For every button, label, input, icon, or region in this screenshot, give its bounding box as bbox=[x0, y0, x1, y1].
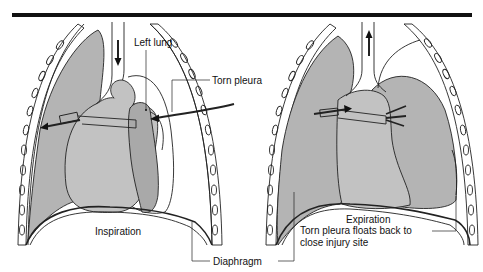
pneumothorax-diagram: Left lung Torn pleura Inspiration Diaphr… bbox=[0, 0, 483, 272]
label-diaphragm: Diaphragm bbox=[213, 256, 262, 267]
top-rule bbox=[12, 13, 472, 17]
label-torn-pleura: Torn pleura bbox=[212, 75, 262, 86]
caption-expiration: Expiration bbox=[346, 214, 390, 225]
note-torn-pleura-line1: Torn pleura floats back to bbox=[300, 225, 412, 236]
label-left-lung: Left lung bbox=[134, 37, 172, 48]
caption-inspiration: Inspiration bbox=[95, 226, 141, 237]
note-torn-pleura-line2: close injury site bbox=[300, 237, 368, 248]
